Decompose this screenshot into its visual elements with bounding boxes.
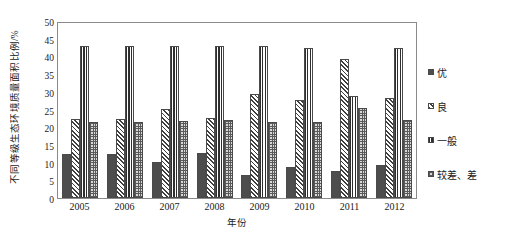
bar-2009-较差、差	[268, 122, 277, 198]
x-axis-tick-label: 2008	[192, 201, 237, 212]
legend-label: 良	[437, 99, 447, 114]
bar-2010-较差、差	[313, 122, 322, 198]
legend-swatch-icon	[428, 103, 434, 109]
bar-2011-较差、差	[358, 108, 367, 198]
bar-2010-优	[286, 167, 295, 199]
bar-group	[237, 23, 282, 198]
legend-label: 较差、差	[437, 167, 477, 182]
bar-2008-一般	[215, 46, 224, 198]
bar-groups	[58, 23, 416, 198]
bar-2009-良	[250, 94, 259, 198]
y-axis-tick-label: 25	[45, 107, 55, 117]
bar-2009-优	[241, 175, 250, 198]
bar-2010-一般	[304, 48, 313, 198]
y-axis-tick-label: 35	[45, 71, 55, 81]
bar-group	[282, 23, 327, 198]
y-axis-tick-label: 10	[45, 160, 55, 170]
x-axis-tick-label: 2010	[282, 201, 327, 212]
bar-2011-良	[340, 59, 349, 198]
bar-2012-较差、差	[403, 120, 412, 198]
bar-2007-一般	[170, 46, 179, 198]
bar-2012-良	[385, 98, 394, 198]
legend-swatch-icon	[428, 171, 434, 177]
bar-group	[58, 23, 103, 198]
y-axis-tick-label: 45	[45, 36, 55, 46]
bar-2011-一般	[349, 96, 358, 198]
y-axis-title: 不同等级生态环境质量面积比例/%	[7, 17, 21, 197]
chart-container: 不同等级生态环境质量面积比例/% 50454035302520151050 20…	[0, 0, 525, 235]
bar-2009-一般	[259, 46, 268, 198]
bar-group	[327, 23, 372, 198]
legend-item-一般: 一般	[428, 123, 523, 157]
legend-item-优: 优	[428, 55, 523, 89]
x-axis-tick-label: 2006	[102, 201, 147, 212]
bar-2006-一般	[125, 46, 134, 198]
x-axis-tick-label: 2007	[147, 201, 192, 212]
legend-label: 优	[437, 65, 447, 80]
bar-2008-优	[197, 153, 206, 198]
bar-2006-优	[107, 154, 116, 198]
plot-area: 50454035302520151050	[57, 22, 417, 199]
x-axis-tick-label: 2009	[237, 201, 282, 212]
legend-swatch-icon	[428, 137, 434, 143]
y-axis-tick-label: 20	[45, 124, 55, 134]
bar-group	[148, 23, 193, 198]
bar-2007-优	[152, 162, 161, 198]
legend-label: 一般	[437, 133, 457, 148]
bar-2005-一般	[80, 46, 89, 198]
x-axis-tick-labels: 20052006200720082009201020112012	[57, 201, 417, 212]
y-axis-tick-label: 30	[45, 89, 55, 99]
bar-2008-良	[206, 118, 215, 198]
x-axis-tick-label: 2011	[327, 201, 372, 212]
bar-group	[192, 23, 237, 198]
y-axis-tick-label: 15	[45, 142, 55, 152]
y-axis-tick-label: 0	[49, 195, 54, 205]
bar-2012-一般	[394, 48, 403, 198]
bar-2010-良	[295, 100, 304, 198]
bar-2011-优	[331, 171, 340, 198]
legend-swatch-icon	[428, 69, 434, 75]
y-axis-tick-label: 50	[45, 18, 55, 28]
bar-2005-较差、差	[89, 122, 98, 198]
bar-2005-优	[62, 154, 71, 198]
x-axis-tick-label: 2005	[57, 201, 102, 212]
bar-group	[103, 23, 148, 198]
x-axis-title: 年份	[57, 215, 417, 229]
legend: 优良一般较差、差	[428, 55, 523, 191]
x-axis-tick-label: 2012	[372, 201, 417, 212]
bar-2006-良	[116, 119, 125, 198]
bar-2005-良	[71, 119, 80, 198]
bar-2007-较差、差	[179, 121, 188, 198]
bar-2007-良	[161, 109, 170, 198]
legend-item-良: 良	[428, 89, 523, 123]
y-axis-tick-label: 5	[49, 177, 54, 187]
bar-2008-较差、差	[224, 120, 233, 198]
bar-2012-优	[376, 165, 385, 198]
legend-item-较差、差: 较差、差	[428, 157, 523, 191]
bar-2006-较差、差	[134, 122, 143, 198]
y-axis-tick-label: 40	[45, 53, 55, 63]
bar-group	[371, 23, 416, 198]
